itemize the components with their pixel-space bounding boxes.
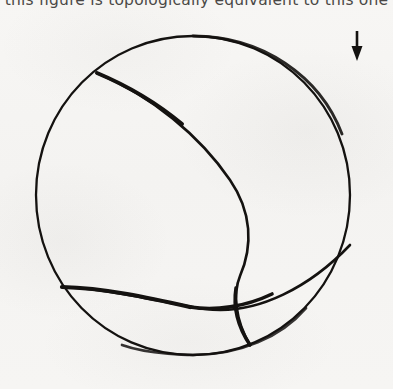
down-arrow [352, 31, 363, 61]
sphere-outline-weight-upper [193, 36, 342, 134]
down-arrow-head [352, 46, 363, 61]
lower-horizontal-curve-group [62, 245, 350, 310]
lower-horizontal-curve [62, 245, 350, 310]
topology-figure [0, 0, 393, 389]
main-meridian-curve-thick-start [97, 73, 182, 124]
scanned-figure-page: this figure is topologically equivalent … [0, 0, 393, 389]
lower-horizontal-curve-thick-left [62, 287, 190, 307]
lower-horizontal-curve-thick-mid [190, 294, 272, 308]
